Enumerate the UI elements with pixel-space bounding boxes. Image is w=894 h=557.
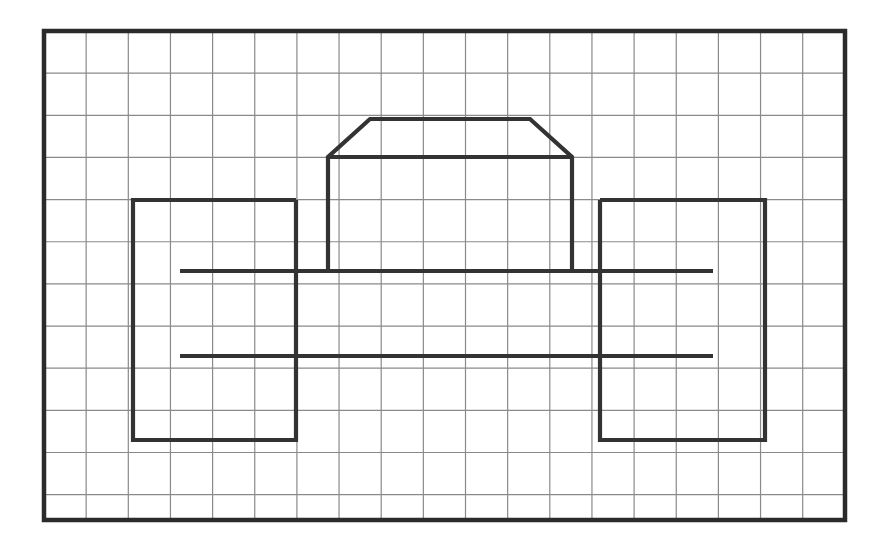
car-drawing-layer [133, 119, 765, 440]
grid-border [44, 31, 845, 520]
grid-layer [44, 31, 845, 520]
cabin-trapezoid [328, 119, 572, 271]
right-wheel-box [600, 200, 765, 440]
grid-figure-svg [0, 0, 894, 557]
left-wheel-box [133, 200, 296, 440]
drawing-canvas: Grid-paper line drawing of a car silhoue… [0, 0, 894, 557]
